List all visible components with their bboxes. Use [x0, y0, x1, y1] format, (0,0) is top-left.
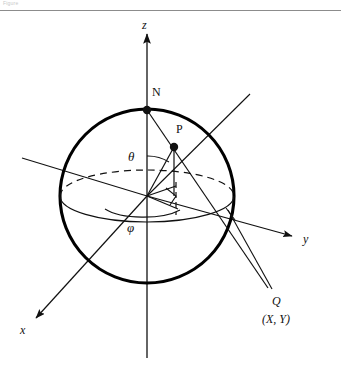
projection-plane-edge: [228, 210, 272, 289]
label-axis-x: x: [20, 324, 25, 336]
label-point-p: P: [176, 123, 183, 135]
label-point-q-coords: (X, Y): [262, 313, 290, 325]
axis-x-line: [36, 196, 147, 318]
figure-page: Figure: [0, 0, 341, 371]
label-angle-theta: θ: [128, 151, 134, 163]
point-n-dot: [143, 106, 151, 114]
label-angle-phi: φ: [127, 222, 134, 234]
label-axis-z: z: [142, 19, 147, 31]
point-p-dot: [170, 143, 178, 151]
phi-arc: [105, 209, 180, 217]
label-point-n: N: [152, 86, 161, 98]
azimuth-ray: [147, 196, 178, 209]
label-axis-y: y: [303, 233, 308, 245]
label-point-q: Q: [272, 295, 281, 307]
